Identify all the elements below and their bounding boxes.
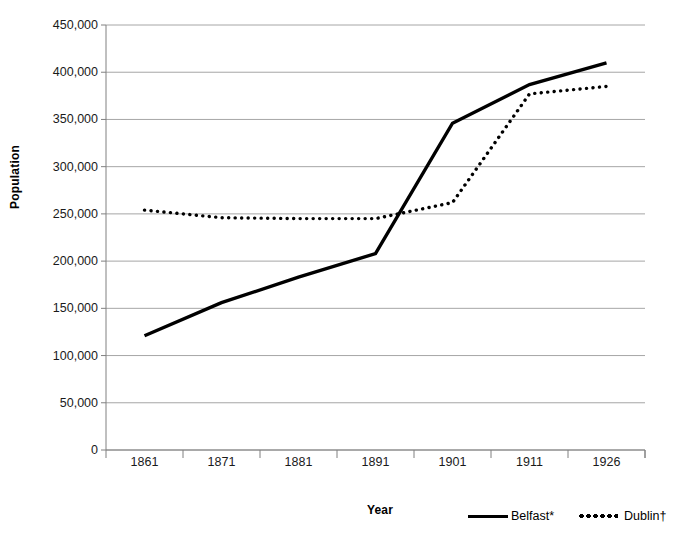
series-line-belfast: [145, 63, 607, 336]
dotted-line-swatch-icon: [578, 514, 618, 518]
population-line-chart: Population Year 050,000100,000150,000200…: [0, 0, 680, 539]
solid-line-swatch-icon: [468, 515, 508, 518]
series-line-dublin: [145, 86, 607, 218]
legend-item-dublin[interactable]: Dublin†: [578, 509, 666, 523]
chart-legend: Belfast* Dublin†: [468, 507, 666, 525]
legend-label-belfast: Belfast*: [511, 509, 554, 523]
legend-item-belfast[interactable]: Belfast*: [468, 509, 554, 523]
legend-label-dublin: Dublin†: [624, 509, 666, 523]
plot-area: [0, 0, 680, 539]
